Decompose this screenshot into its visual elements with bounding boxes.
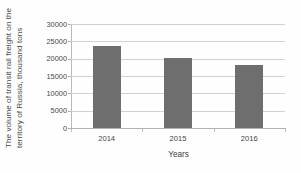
y-axis-tick-mark (68, 41, 71, 42)
y-axis-tick-label: 20000 (46, 54, 67, 63)
bar-2016[interactable] (235, 65, 263, 128)
x-axis-tick-label-2016: 2016 (214, 134, 285, 143)
y-axis-tick-mark (68, 76, 71, 77)
y-axis-tick-mark (68, 111, 71, 112)
y-axis-title-label: The volume of transit rail freight on th… (4, 2, 25, 148)
bar-chart-figure: The volume of transit rail freight on th… (0, 0, 301, 173)
x-axis-tick-label-2015: 2015 (142, 134, 213, 143)
y-axis-tick-label: 0 (63, 124, 67, 133)
x-axis-title: Years (71, 150, 286, 159)
x-axis-tick-mark (142, 129, 143, 132)
gridline (71, 41, 285, 42)
y-axis-tick-label: 10000 (46, 89, 67, 98)
y-axis-tick-label: 5000 (51, 106, 67, 115)
y-axis-tick-mark (68, 24, 71, 25)
y-axis-tick-label: 30000 (46, 20, 67, 29)
bar-2015[interactable] (164, 58, 192, 128)
gridline (71, 24, 285, 25)
x-axis-tick-mark (71, 129, 72, 132)
x-axis-tick-mark (214, 129, 215, 132)
y-axis-tick-label: 25000 (46, 37, 67, 46)
y-axis-tick-mark (68, 59, 71, 60)
x-axis-tick-label-2014: 2014 (71, 134, 142, 143)
x-axis-tick-mark (285, 129, 286, 132)
x-axis-line (71, 128, 286, 129)
y-axis-tick-labels: 300002500020000150001000050000 (30, 0, 67, 140)
y-axis-tick-label: 15000 (46, 72, 67, 81)
bar-2014[interactable] (93, 46, 121, 129)
plot-area (71, 24, 285, 128)
y-axis-tick-mark (68, 93, 71, 94)
